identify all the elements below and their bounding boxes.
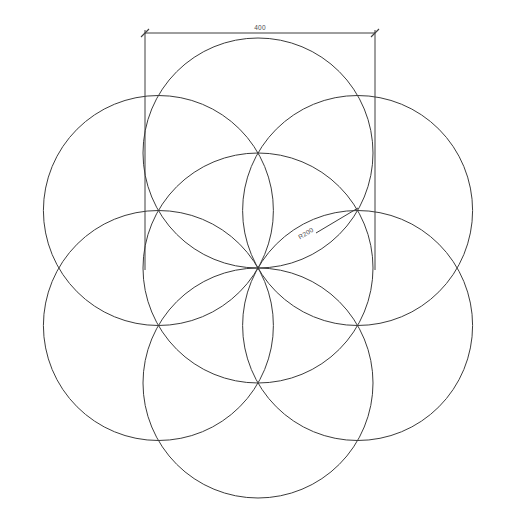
circle-group [43,38,472,498]
flower-of-life-svg: 400 R200 [0,0,514,518]
width-dimension-label: 400 [254,24,266,31]
width-dimension: 400 [141,24,379,270]
cad-drawing-canvas: 400 R200 [0,0,514,518]
radius-dimension-label: R200 [297,226,315,241]
